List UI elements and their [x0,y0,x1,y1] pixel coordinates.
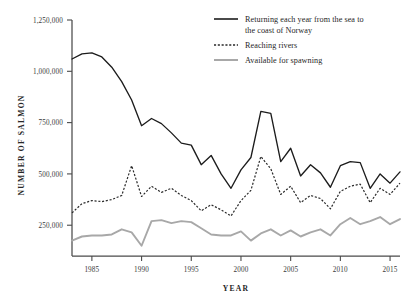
legend-label-returning-line1: Returning each year from the sea to [245,15,364,24]
legend-label-rivers: Reaching rivers [245,41,297,50]
x-tick-label: 2005 [283,266,298,274]
y-axis-title: NUMBER OF SALMON [17,94,26,195]
chart-svg: 250,000500,000750,0001,000,0001,250,000 … [0,0,411,308]
legend-label-returning-line2: the coast of Norway [245,26,313,35]
series-line-returning-from-sea [72,53,400,188]
data-series-group [72,53,400,246]
x-tick-label: 2015 [383,266,398,274]
y-tick-label: 1,250,000 [33,17,63,25]
legend-label-spawning: Available for spawning [245,56,322,65]
y-tick-label: 500,000 [39,171,64,179]
y-axis-group: 250,000500,000750,0001,000,0001,250,000 … [17,17,72,256]
legend: Returning each year from the sea to the … [214,15,364,65]
y-tick-label: 1,000,000 [33,68,63,76]
x-axis-title: YEAR [223,284,250,293]
x-axis-ticks [92,256,390,261]
y-tick-label: 250,000 [39,222,64,230]
series-line-reaching-rivers [72,156,400,216]
y-axis-ticks [67,20,72,225]
y-tick-label: 750,000 [39,119,64,127]
x-axis-tick-labels: 1985199019952000200520102015 [84,266,397,274]
x-tick-label: 1995 [184,266,199,274]
salmon-population-chart: 250,000500,000750,0001,000,0001,250,000 … [0,0,411,308]
x-tick-label: 1985 [84,266,99,274]
x-tick-label: 2000 [233,266,248,274]
series-line-available-for-spawning [72,217,400,246]
x-tick-label: 2010 [333,266,348,274]
x-axis-group: 1985199019952000200520102015 YEAR [72,256,400,293]
y-axis-tick-labels: 250,000500,000750,0001,000,0001,250,000 [33,17,63,230]
x-tick-label: 1990 [134,266,149,274]
